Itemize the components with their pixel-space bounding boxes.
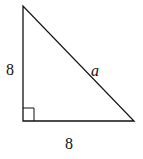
right-triangle <box>23 6 134 121</box>
bottom-side-label: 8 <box>65 135 73 152</box>
hypotenuse-label: a <box>91 62 99 79</box>
left-side-label: 8 <box>6 61 14 78</box>
right-angle-marker <box>23 108 34 121</box>
triangle-diagram: 8 8 a <box>0 0 143 159</box>
